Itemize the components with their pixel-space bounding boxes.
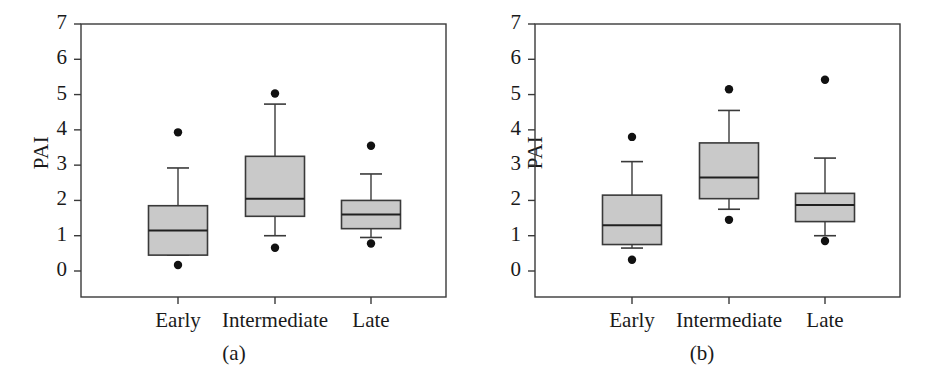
y-tick-label-a-4: 4: [41, 116, 67, 141]
boxplot-a-intermediate: [246, 89, 305, 252]
x-category-label-b-late: Late: [745, 308, 905, 333]
y-tick-label-a-0: 0: [41, 257, 67, 282]
boxplot-a-early: [149, 128, 208, 269]
y-tick-label-b-3: 3: [495, 151, 521, 176]
panel-b-caption: (b): [468, 341, 936, 366]
y-tick-label-b-7: 7: [495, 10, 521, 35]
y-tick-label-a-5: 5: [41, 81, 67, 106]
panel-a: PAI (a) 01234567EarlyIntermediateLate: [0, 0, 468, 382]
y-tick-label-b-5: 5: [495, 81, 521, 106]
y-tick-label-b-2: 2: [495, 186, 521, 211]
boxplot-a-late: [342, 142, 401, 248]
panel-b: PAI (b) 01234567EarlyIntermediateLate: [468, 0, 936, 382]
boxplot-figure: PAI (a) 01234567EarlyIntermediateLate PA…: [0, 0, 937, 382]
panel-a-caption: (a): [0, 341, 468, 366]
y-tick-label-b-6: 6: [495, 45, 521, 70]
y-tick-label-a-3: 3: [41, 151, 67, 176]
boxplot-b-late: [796, 76, 855, 246]
y-tick-label-a-2: 2: [41, 186, 67, 211]
y-tick-label-b-0: 0: [495, 257, 521, 282]
y-tick-label-a-6: 6: [41, 45, 67, 70]
y-tick-label-b-4: 4: [495, 116, 521, 141]
boxplot-b-early: [603, 133, 662, 264]
y-tick-label-a-1: 1: [41, 222, 67, 247]
y-tick-label-b-1: 1: [495, 222, 521, 247]
y-tick-label-a-7: 7: [41, 10, 67, 35]
x-category-label-a-late: Late: [291, 308, 451, 333]
boxplot-b-intermediate: [700, 85, 759, 224]
